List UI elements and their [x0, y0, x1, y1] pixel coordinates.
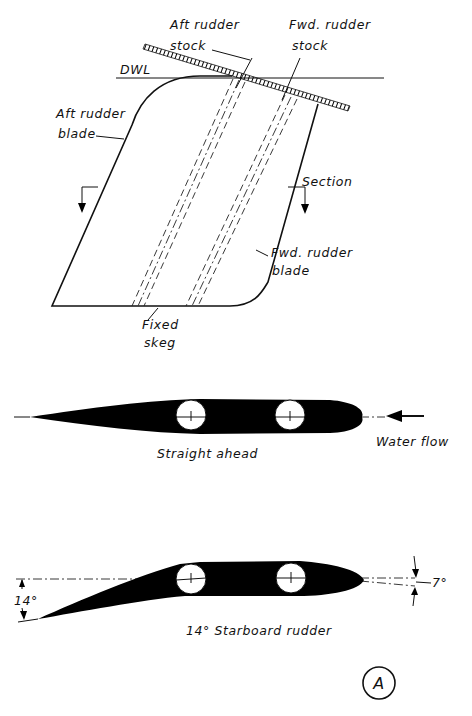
- straight-ahead-caption: Straight ahead: [157, 446, 258, 461]
- figure-label: A: [363, 667, 395, 699]
- section-straight-ahead: Water flow Straight ahead: [14, 399, 449, 461]
- starboard-caption: 14° Starboard rudder: [186, 623, 332, 638]
- aft-stock-line: [132, 79, 233, 306]
- fwd-angle-line: [360, 581, 415, 586]
- aft-blade-leader: [96, 136, 124, 139]
- water-flow-arrow: [386, 410, 424, 422]
- rudder-elevation: Aft rudder stock Fwd. rudder stock DWL A…: [52, 17, 384, 350]
- aft-blade-label: Aft rudder: [55, 106, 126, 121]
- aft-stock-centerline: [138, 80, 239, 306]
- dwl-label: DWL: [120, 62, 151, 77]
- section-starboard: 14° 7° 14° Starboard rudder: [14, 556, 447, 638]
- skeg-label: skeg: [144, 335, 176, 350]
- fwd-blade-label: Fwd. rudder: [271, 245, 353, 260]
- fwd-blade-leader: [256, 250, 268, 256]
- aft-stock-line: [144, 82, 245, 306]
- fwd-blade-label: blade: [272, 263, 310, 278]
- aft-stock-label: stock: [170, 38, 206, 53]
- fwd-angle-label: 7°: [432, 575, 447, 590]
- figure-label-text: A: [372, 674, 385, 693]
- aft-angle-label: 14°: [14, 593, 38, 608]
- aft-stock-leader: [212, 50, 250, 60]
- skeg-label: Fixed: [142, 317, 179, 332]
- section-label: Section: [302, 174, 353, 189]
- rudder-diagram: Aft rudder stock Fwd. rudder stock DWL A…: [0, 0, 472, 716]
- fwd-stock-label: stock: [292, 38, 328, 53]
- fwd-stock-label: Fwd. rudder: [289, 17, 371, 32]
- aft-stock-label: Aft rudder: [169, 17, 240, 32]
- water-flow-label: Water flow: [376, 434, 449, 449]
- aft-blade-label: blade: [58, 126, 96, 141]
- fwd-angle-dimension: [411, 556, 431, 606]
